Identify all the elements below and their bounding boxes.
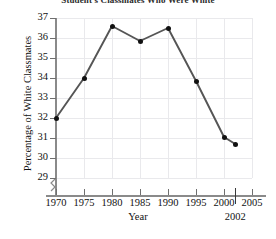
x-axis-tick	[252, 189, 253, 195]
annotation-tick-line	[235, 188, 236, 204]
gridline-vertical	[112, 18, 113, 178]
x-axis-tick	[196, 189, 197, 195]
gridline-horizontal	[56, 98, 252, 99]
x-axis-tick	[168, 189, 169, 195]
x-axis-tick-label: 1970	[46, 197, 67, 208]
gridline-vertical	[168, 18, 169, 178]
y-axis-tick	[50, 178, 56, 179]
x-axis-tick-label: 1975	[74, 197, 95, 208]
annotation-label: 2002	[225, 211, 246, 222]
data-point-marker	[233, 142, 238, 147]
data-point-marker	[82, 76, 87, 81]
gridline-horizontal	[56, 18, 252, 19]
y-axis-tick	[50, 138, 56, 139]
gridline-vertical	[84, 18, 85, 178]
x-axis-tick	[112, 189, 113, 195]
gridline-vertical	[196, 18, 197, 178]
data-point-marker	[138, 39, 143, 44]
data-point-marker	[222, 135, 227, 140]
x-axis-tick	[84, 189, 85, 195]
x-axis-tick	[140, 189, 141, 195]
x-axis-tick-label: 2000	[214, 197, 235, 208]
gridline-horizontal	[56, 178, 252, 179]
gridline-horizontal	[56, 58, 252, 59]
gridline-horizontal	[56, 38, 252, 39]
x-axis-tick-label: 1990	[158, 197, 179, 208]
y-axis-line	[55, 18, 57, 196]
y-axis-tick	[50, 18, 56, 19]
data-point-marker	[54, 116, 59, 121]
y-axis-tick-label: 32	[30, 111, 48, 122]
data-point-marker	[194, 79, 199, 84]
y-axis-tick	[50, 98, 56, 99]
y-axis-tick	[50, 158, 56, 159]
x-axis-tick-label: 2005	[242, 197, 263, 208]
y-axis-tick-label: 29	[30, 171, 48, 182]
x-axis-tick-label: 1980	[102, 197, 123, 208]
y-axis-tick-label: 33	[30, 91, 48, 102]
chart-title: Student's Classmates Who Were White	[0, 0, 276, 5]
gridline-vertical	[224, 18, 225, 178]
y-axis-tick-label: 36	[30, 31, 48, 42]
x-axis-tick-label: 1995	[186, 197, 207, 208]
gridline-horizontal	[56, 118, 252, 119]
y-axis-tick-label: 30	[30, 151, 48, 162]
data-point-marker	[166, 26, 171, 31]
y-axis-tick-label: 34	[30, 71, 48, 82]
gridline-horizontal	[56, 158, 252, 159]
gridline-vertical	[252, 18, 253, 178]
y-axis-tick	[50, 38, 56, 39]
y-axis-tick-label: 35	[30, 51, 48, 62]
x-axis-tick	[224, 189, 225, 195]
x-axis-tick-label: 1985	[130, 197, 151, 208]
y-axis-tick	[50, 58, 56, 59]
y-axis-tick	[50, 78, 56, 79]
y-axis-tick-label: 31	[30, 131, 48, 142]
x-axis-tick	[56, 189, 57, 195]
plot-area	[56, 18, 252, 178]
line-chart: Student's Classmates Who Were White Perc…	[0, 0, 276, 239]
y-axis-tick-label: 37	[30, 11, 48, 22]
data-point-marker	[110, 24, 115, 29]
y-axis-title: Percentage of White Classmates	[22, 19, 33, 189]
